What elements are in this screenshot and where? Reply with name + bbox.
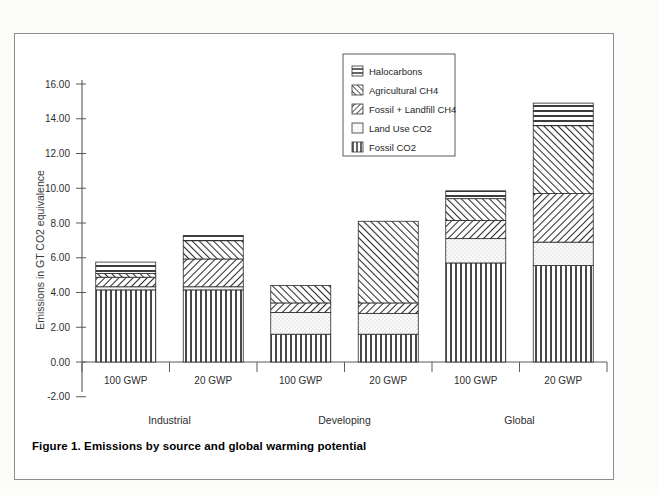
x-tick-label: 100 GWP bbox=[454, 375, 498, 386]
y-axis-label: Emissions in GT CO2 equivalence bbox=[34, 170, 46, 330]
chart-legend: HalocarbonsAgricultural CH4Fossil + Land… bbox=[343, 54, 456, 156]
y-tick-label: 0.00 bbox=[51, 357, 71, 368]
bar-segment bbox=[183, 290, 243, 362]
bar-segment bbox=[96, 262, 156, 273]
bar-segment bbox=[96, 277, 156, 287]
legend-label: Land Use CO2 bbox=[369, 123, 432, 134]
bar-segment bbox=[533, 103, 593, 126]
bar-segment bbox=[446, 191, 506, 199]
x-axis-ticks: 100 GWP20 GWP100 GWP20 GWP100 GWP20 GWP bbox=[82, 362, 607, 386]
y-tick-label: 4.00 bbox=[51, 287, 71, 298]
bar-segment bbox=[358, 313, 418, 334]
y-tick-label: 12.00 bbox=[45, 148, 70, 159]
bar-segment bbox=[271, 312, 331, 334]
x-group-label: Industrial bbox=[148, 414, 191, 426]
bar-segment bbox=[271, 303, 331, 313]
bar-segment bbox=[96, 287, 156, 290]
legend-label: Halocarbons bbox=[369, 66, 423, 77]
legend-label: Fossil + Landfill CH4 bbox=[369, 104, 456, 115]
x-tick-label: 20 GWP bbox=[369, 375, 407, 386]
figure-caption: Figure 1. Emissions by source and global… bbox=[32, 440, 366, 452]
x-group-label: Global bbox=[504, 414, 534, 426]
y-tick-label: 16.00 bbox=[45, 79, 70, 90]
bar-segment bbox=[183, 287, 243, 290]
x-tick-label: 20 GWP bbox=[544, 375, 582, 386]
legend-swatch bbox=[352, 104, 363, 114]
legend-label: Fossil CO2 bbox=[369, 142, 416, 153]
x-tick-label: 20 GWP bbox=[194, 375, 232, 386]
x-tick-label: 100 GWP bbox=[104, 375, 148, 386]
bar-segment bbox=[533, 193, 593, 242]
legend-swatch bbox=[352, 123, 363, 133]
x-axis-group-labels: IndustrialDevelopingGlobal bbox=[148, 414, 534, 426]
y-tick-label: 8.00 bbox=[51, 218, 71, 229]
bar-segment bbox=[533, 266, 593, 362]
bar-segment bbox=[533, 126, 593, 194]
bar-segment bbox=[96, 290, 156, 362]
bar-segment bbox=[183, 236, 243, 241]
legend-swatch bbox=[352, 142, 363, 152]
bar-segment bbox=[533, 242, 593, 265]
legend-swatch bbox=[352, 66, 363, 76]
bar-segment bbox=[183, 259, 243, 287]
legend-label: Agricultural CH4 bbox=[369, 85, 438, 96]
bar-segment bbox=[358, 221, 418, 303]
bar-segment bbox=[446, 199, 506, 221]
y-tick-label: 10.00 bbox=[45, 183, 70, 194]
bar-segment bbox=[446, 239, 506, 263]
y-axis-ticks: -2.000.002.004.006.008.0010.0012.0014.00… bbox=[45, 79, 86, 403]
bar-segment bbox=[183, 241, 243, 259]
y-tick-label: 6.00 bbox=[51, 252, 71, 263]
bar-segment bbox=[271, 286, 331, 303]
bar-segment bbox=[358, 334, 418, 362]
x-tick-label: 100 GWP bbox=[279, 375, 323, 386]
y-tick-label: -2.00 bbox=[47, 391, 70, 402]
y-tick-label: 14.00 bbox=[45, 113, 70, 124]
legend-swatch bbox=[352, 85, 363, 95]
y-tick-label: 2.00 bbox=[51, 322, 71, 333]
bar-segment bbox=[271, 334, 331, 362]
chart-canvas: Emissions in GT CO2 equivalence -2.000.0… bbox=[0, 0, 659, 495]
bar-segment bbox=[446, 220, 506, 238]
bar-segment bbox=[358, 303, 418, 313]
bar-segment bbox=[446, 263, 506, 362]
bar-segment bbox=[96, 273, 156, 277]
x-group-label: Developing bbox=[318, 414, 371, 426]
